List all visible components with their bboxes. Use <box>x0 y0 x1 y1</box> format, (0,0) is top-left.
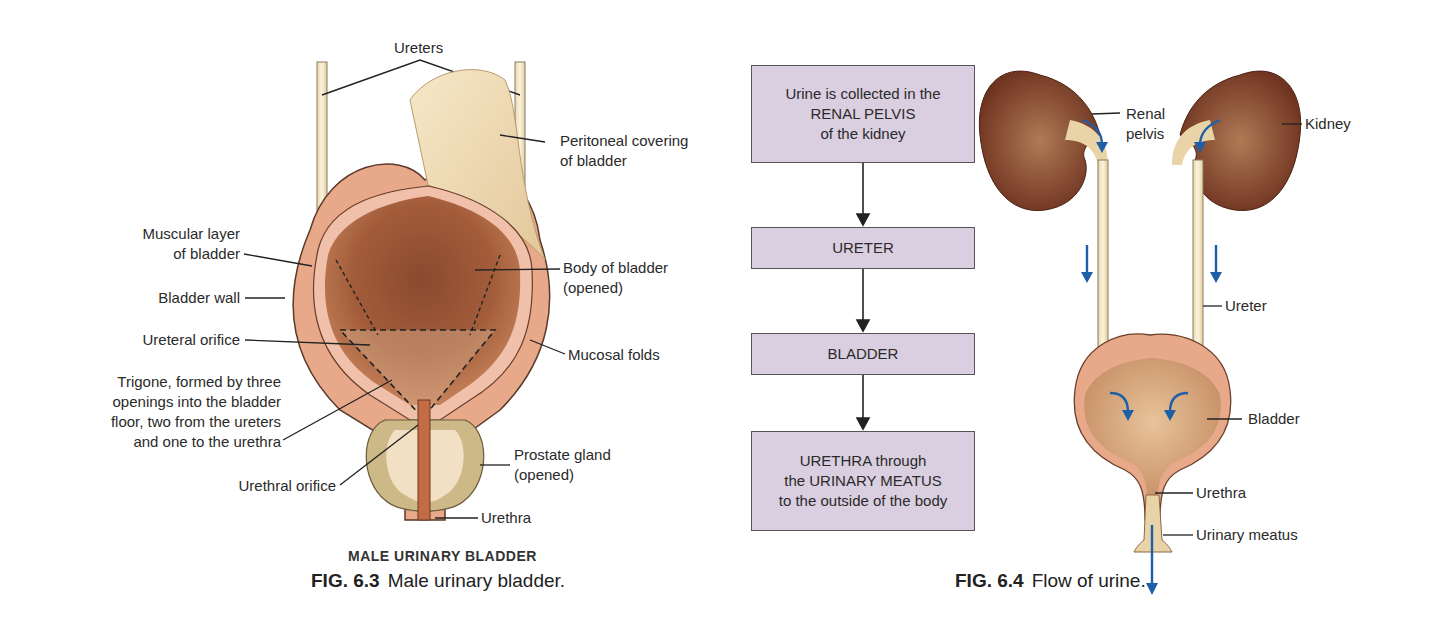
figure-6-3-subtitle: MALE URINARY BLADDER <box>348 548 537 564</box>
label-peritoneal-covering: Peritoneal covering of bladder <box>560 131 688 171</box>
label-body-of-bladder: Body of bladder (opened) <box>563 258 668 298</box>
figure-6-4-caption-text: Flow of urine. <box>1032 570 1146 591</box>
label-ureter: Ureter <box>1225 296 1267 316</box>
label-trigone: Trigone, formed by three openings into t… <box>70 372 281 452</box>
label-prostate-gland: Prostate gland (opened) <box>514 445 611 485</box>
figure-6-3-number: FIG. 6.3 <box>311 570 380 591</box>
flow-step-renal-pelvis: Urine is collected in the RENAL PELVIS o… <box>751 65 975 163</box>
label-urethral-orifice: Urethral orifice <box>200 476 336 496</box>
label-urethra-fig-6-4: Urethra <box>1196 483 1246 503</box>
label-bladder-wall: Bladder wall <box>120 288 240 308</box>
label-urethra: Urethra <box>481 508 531 528</box>
label-kidney: Kidney <box>1305 114 1351 134</box>
figure-6-4-caption: FIG. 6.4Flow of urine. <box>955 570 1146 592</box>
label-muscular-layer: Muscular layer of bladder <box>118 224 240 264</box>
flow-step-ureter: URETER <box>751 227 975 269</box>
ureter-right <box>1193 160 1203 350</box>
flow-step-bladder: BLADDER <box>751 333 975 375</box>
figure-6-3-caption: FIG. 6.3Male urinary bladder. <box>311 570 565 592</box>
label-urinary-meatus: Urinary meatus <box>1196 525 1298 545</box>
label-bladder: Bladder <box>1248 409 1300 429</box>
flowchart-arrows <box>857 162 869 429</box>
ureter-left <box>1098 160 1108 350</box>
figure-6-3-caption-text: Male urinary bladder. <box>388 570 565 591</box>
label-ureteral-orifice: Ureteral orifice <box>100 330 240 350</box>
figure-6-4-number: FIG. 6.4 <box>955 570 1024 591</box>
label-mucosal-folds: Mucosal folds <box>568 345 660 365</box>
urethra-tube <box>418 400 430 520</box>
flow-step-urethra: URETHRA through the URINARY MEATUS to th… <box>751 431 975 531</box>
label-ureters: Ureters <box>394 38 443 58</box>
label-renal-pelvis: Renal pelvis <box>1126 104 1165 144</box>
